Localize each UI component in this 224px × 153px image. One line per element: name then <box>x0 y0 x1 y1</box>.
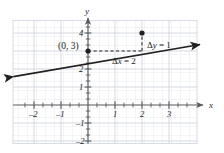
delta-y-variable: y <box>153 40 157 50</box>
x-tick-label--2: –2 <box>29 110 38 119</box>
y-tick-label--1: –1 <box>76 119 85 128</box>
grid <box>13 21 197 144</box>
y-tick-label--2: –2 <box>76 137 85 146</box>
x-tick-label--1: –1 <box>56 110 65 119</box>
delta-y-label: Δy = 1 <box>147 41 171 50</box>
y-axis-label: y <box>85 7 89 16</box>
delta-x-variable: x <box>118 56 122 66</box>
y-tick-label-2: 2 <box>79 65 83 74</box>
coordinate-plane <box>0 0 224 153</box>
y-intercept-label: (0, 3) <box>58 42 79 52</box>
delta-x-label: Δx = 2 <box>112 57 136 66</box>
x-axis-label: x <box>209 101 213 110</box>
y-tick-label-4: 4 <box>79 29 83 38</box>
delta-y-value: = 1 <box>159 40 171 50</box>
x-tick-label-2: 2 <box>140 110 144 119</box>
x-tick-label-1: 1 <box>113 110 117 119</box>
x-tick-label-3: 3 <box>167 110 171 119</box>
y-tick-label-1: 1 <box>79 83 83 92</box>
delta-x-value: = 2 <box>124 56 136 66</box>
point-second <box>139 30 144 35</box>
graph-figure: x y –2 –1 1 2 3 4 2 1 –1 –2 (0, 3) Δx = … <box>0 0 224 153</box>
point-y-intercept <box>85 48 90 53</box>
